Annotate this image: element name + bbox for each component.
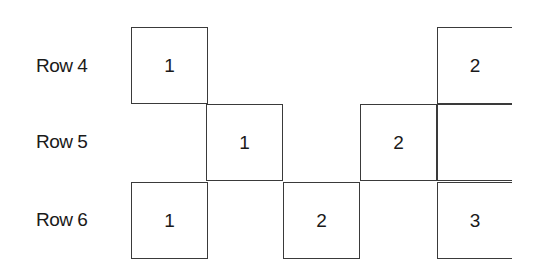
row-label-4: Row 4 [36,55,87,77]
row-label-6: Row 6 [36,209,87,231]
cell-row6-col5: 3 [437,182,512,259]
cell-row5-col2: 1 [206,104,283,181]
cell-row5-col4: 2 [360,104,437,181]
row-label-5: Row 5 [36,131,87,153]
cell-row6-col1: 1 [131,182,208,259]
cell-row5-col5 [437,104,512,181]
cell-row4-col1: 1 [131,27,208,104]
cell-row4-col5: 2 [437,27,512,104]
row-cell-diagram: Row 4 Row 5 Row 6 1 2 1 2 1 2 3 [0,0,535,274]
cell-row6-col3: 2 [283,182,360,259]
